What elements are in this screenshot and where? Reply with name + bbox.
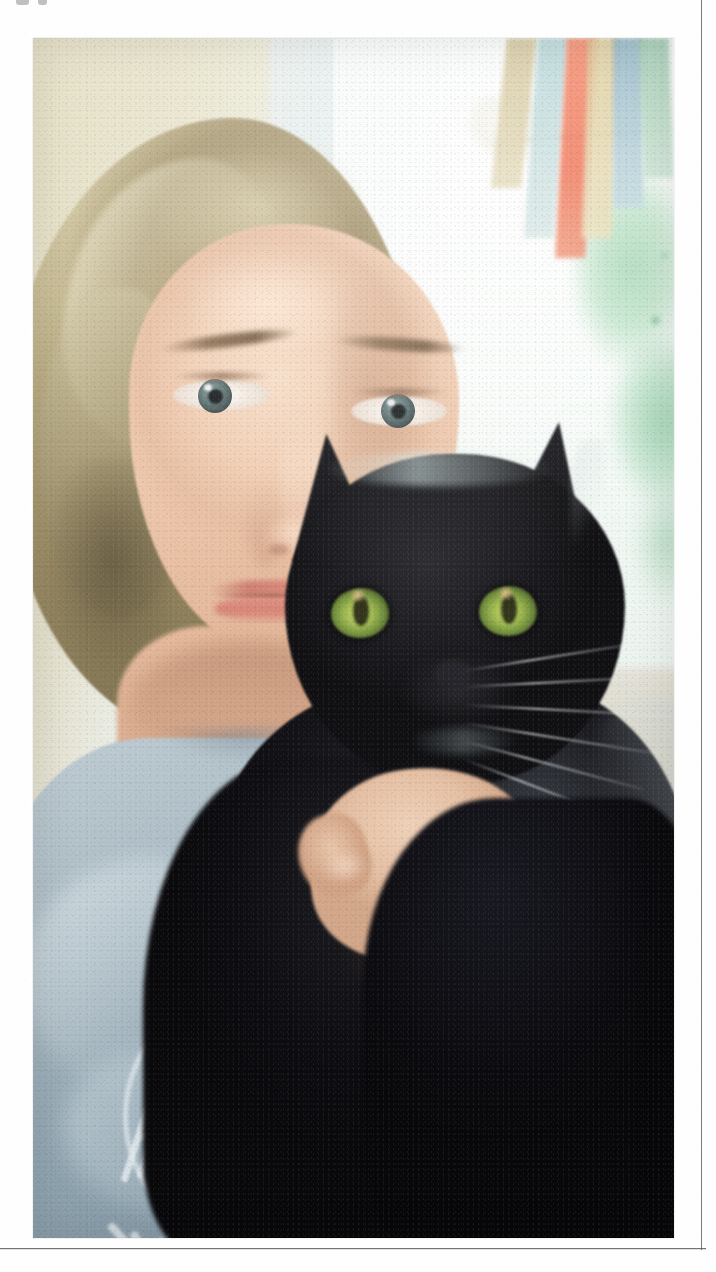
cat-head-rim-light [325, 452, 555, 486]
eye-glint-left [204, 384, 212, 391]
whisker [463, 676, 663, 688]
cut-mark-right [38, 0, 47, 5]
scanned-page-sheet: Selfie portrait of a light-haired person… [0, 0, 716, 1272]
eyelid-left [173, 372, 271, 380]
whisker [463, 704, 671, 717]
hand-knuckle-highlight [321, 848, 375, 888]
top-cut-off-ink-marks [16, 0, 50, 7]
photo-stage [33, 38, 674, 1238]
cat-eye-highlight-right [497, 587, 515, 600]
cat-lower-body-shadow [363, 798, 674, 1238]
eye-glint-right [387, 399, 395, 406]
page-border-rule-right [701, 0, 702, 1250]
bunting-flag-green [639, 38, 674, 178]
portrait-photo [33, 38, 674, 1238]
page-border-rule-bottom [0, 1248, 706, 1249]
hanging-bunting-flags [485, 38, 674, 338]
pupil-left [208, 389, 223, 404]
cut-mark-left [16, 0, 29, 5]
pupil-right [391, 404, 406, 419]
photo-caption: Selfie portrait of a light-haired person… [0, 0, 1, 1]
cat-ear-right-rim-light [571, 440, 605, 550]
whisker [463, 722, 661, 755]
cat-eye-highlight-left [349, 589, 367, 602]
eyelid-right [351, 388, 449, 396]
